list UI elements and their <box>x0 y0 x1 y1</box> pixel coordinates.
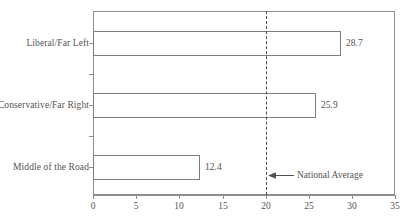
x-tick-label-3: 15 <box>218 201 228 212</box>
x-tick-30 <box>352 195 353 199</box>
x-tick-0 <box>93 195 94 199</box>
x-tick-label-0: 0 <box>91 201 96 212</box>
national-average-annotation: National Average <box>268 170 363 181</box>
x-tick-5 <box>136 195 137 199</box>
national-average-line <box>266 11 267 195</box>
bar-liberal-far-left <box>93 31 341 56</box>
category-label-0: Liberal/Far Left <box>26 38 89 49</box>
category-axis-labels: Liberal/Far Left Conservative/Far Right … <box>0 0 89 223</box>
left-arrow-icon <box>268 171 294 180</box>
bar-value-2: 12.4 <box>205 162 222 173</box>
y-tick-minor-1 <box>89 136 93 137</box>
bar-middle-of-the-road <box>93 155 200 180</box>
x-axis <box>93 195 395 196</box>
category-label-2: Middle of the Road <box>13 162 89 173</box>
bar-value-1: 25.9 <box>321 100 338 111</box>
bar-chart: Liberal/Far Left Conservative/Far Right … <box>0 0 408 223</box>
x-tick-35 <box>395 195 396 199</box>
x-tick-15 <box>223 195 224 199</box>
x-tick-10 <box>179 195 180 199</box>
bar-conservative-far-right <box>93 93 316 118</box>
x-tick-20 <box>266 195 267 199</box>
category-label-1: Conservative/Far Right <box>0 100 89 111</box>
x-tick-label-5: 25 <box>304 201 314 212</box>
x-tick-label-4: 20 <box>261 201 271 212</box>
x-tick-label-7: 35 <box>390 201 400 212</box>
x-tick-label-2: 10 <box>174 201 184 212</box>
x-tick-label-1: 5 <box>134 201 139 212</box>
y-tick-minor-0 <box>89 74 93 75</box>
national-average-label: National Average <box>297 170 363 181</box>
x-tick-label-6: 30 <box>347 201 357 212</box>
x-tick-25 <box>309 195 310 199</box>
bar-value-0: 28.7 <box>346 38 363 49</box>
